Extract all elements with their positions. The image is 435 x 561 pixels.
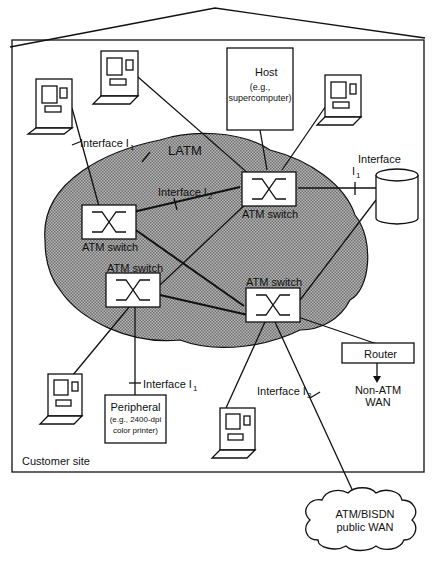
customer-site-label: Customer site <box>22 455 90 467</box>
interface-i2-label: Interface I2 <box>158 186 212 203</box>
interface-i1-right-sub: I1 <box>352 165 361 182</box>
interface-i1-bottom-label: Interface I1 <box>143 378 197 395</box>
peripheral-title: Peripheral <box>105 401 166 413</box>
interface-i3-label: Interface I3 <box>257 385 311 402</box>
atm-switch-icon <box>246 288 300 322</box>
interface-i1-top-label: Interface I1 <box>80 137 134 154</box>
atm-switch-label: ATM switch <box>82 241 138 253</box>
storage-cylinder-icon <box>376 169 418 224</box>
atm-switch-label: ATM switch <box>246 276 302 288</box>
host-title: Host <box>255 66 278 78</box>
terminal-icon <box>93 51 138 104</box>
latm-label: LATM <box>168 145 202 157</box>
arrow-down-icon <box>373 376 381 383</box>
network-diagram <box>0 0 435 561</box>
interface-i1-right-label: Interface <box>358 153 401 165</box>
terminal-icon <box>317 75 361 125</box>
atm-switch-icon <box>242 172 296 206</box>
public-wan-line2: public WAN <box>320 521 410 533</box>
atm-switch-label: ATM switch <box>242 208 298 220</box>
peripheral-subtitle-2: color printer) <box>105 425 166 436</box>
router-label: Router <box>364 348 397 360</box>
public-wan-line1: ATM/BISDN <box>320 508 410 520</box>
peripheral-subtitle-1: (e.g., 2400-dpi <box>105 414 166 425</box>
atm-switch-icon <box>106 273 160 307</box>
atm-switch-icon <box>82 205 136 239</box>
terminal-icon <box>40 374 82 424</box>
non-atm-wan-line1: Non-ATM <box>352 384 404 396</box>
terminal-icon <box>28 79 72 134</box>
host-subtitle-1: (e.g., <box>227 82 293 93</box>
terminal-icon <box>212 408 255 458</box>
host-subtitle-2: supercomputer) <box>227 93 293 104</box>
atm-switch-label: ATM switch <box>107 262 163 274</box>
non-atm-wan-line2: WAN <box>352 396 404 408</box>
